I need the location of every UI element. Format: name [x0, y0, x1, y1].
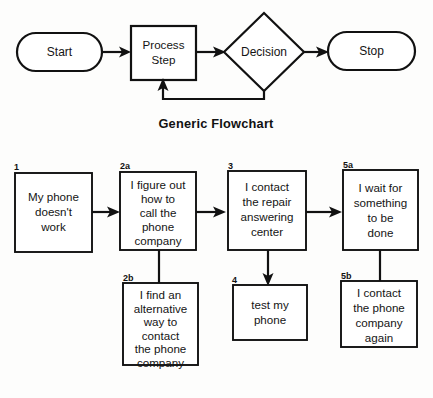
box-5b-line-1: I contact	[357, 286, 402, 299]
connector-process-to-decision	[196, 47, 226, 58]
box-1-line-3: work	[40, 220, 66, 233]
box-2a-line-1: I figure out	[131, 178, 187, 191]
box-2a-line-5: company	[134, 234, 181, 247]
box-2b: 2b I find an alternative way to contact …	[123, 273, 198, 369]
box-5a-line-2: something	[354, 196, 408, 209]
box-2b-line-1: I find an	[140, 288, 181, 301]
box-5a-number: 5a	[343, 160, 354, 170]
box-3: 3 I contact the repair answering center	[228, 161, 306, 250]
box-4-line-2: phone	[254, 313, 286, 326]
box-5a-line-1: I wait for	[359, 181, 403, 194]
connector-box3-to-box5a	[306, 207, 342, 218]
phone-flowchart-group: 1 My phone doesn't work 2a I figure out …	[14, 160, 418, 369]
box-1-line-1: My phone	[28, 190, 79, 203]
stop-label: Stop	[359, 44, 384, 58]
box-2b-line-6: company	[137, 356, 184, 369]
box-2b-line-4: contact	[142, 329, 180, 342]
connector-decision-to-stop	[304, 47, 329, 58]
box-2b-number: 2b	[123, 273, 134, 283]
box-5b-number: 5b	[341, 271, 352, 281]
connector-box3-to-box4	[263, 250, 274, 286]
box-3-line-2: the repair	[243, 195, 292, 208]
generic-flowchart-group: Start Process Step Decision	[17, 13, 415, 131]
process-step-label-line-1: Process	[143, 38, 185, 51]
connector-decision-feedback-loop	[158, 78, 265, 99]
connector-box2a-to-box3	[196, 207, 226, 218]
connector-start-to-process	[102, 47, 131, 58]
decision-label: Decision	[241, 45, 287, 59]
box-1-number: 1	[14, 162, 19, 172]
box-2a-number: 2a	[120, 161, 131, 171]
box-2b-line-3: way to	[143, 315, 178, 328]
node-process-step: Process Step	[131, 26, 196, 80]
box-3-line-3: answering	[241, 210, 294, 223]
box-4: 4 test my phone	[232, 275, 307, 340]
box-1: 1 My phone doesn't work	[14, 162, 92, 252]
process-step-label-line-2: Step	[152, 53, 176, 66]
box-3-line-1: I contact	[245, 180, 290, 193]
box-2b-line-2: alternative	[134, 302, 188, 315]
box-3-line-4: center	[251, 225, 283, 238]
box-5a-line-4: done	[368, 226, 394, 239]
start-label: Start	[47, 45, 73, 59]
box-2a: 2a I figure out how to call the phone co…	[120, 161, 196, 250]
box-5b-line-3: company	[355, 316, 402, 329]
node-start: Start	[17, 33, 102, 71]
flowchart-canvas: Start Process Step Decision	[0, 0, 433, 398]
box-2a-line-2: how to	[141, 192, 175, 205]
box-2a-line-4: phone	[142, 220, 174, 233]
feedback-loop-line	[163, 88, 264, 99]
box-4-number: 4	[232, 275, 237, 285]
box-3-number: 3	[228, 161, 233, 171]
box-5b: 5b I contact the phone company again	[341, 271, 417, 347]
flowchart-figure: Start Process Step Decision	[0, 0, 433, 398]
box-1-line-2: doesn't	[35, 205, 73, 218]
box-2a-line-3: call the	[140, 206, 177, 219]
box-2b-line-5: the phone	[135, 342, 187, 355]
box-5a: 5a I wait for something to be done	[343, 160, 418, 250]
node-decision: Decision	[224, 13, 304, 91]
box-5b-line-2: the phone	[353, 301, 405, 314]
connector-box1-to-box2a	[92, 207, 120, 218]
node-stop: Stop	[328, 32, 415, 70]
box-4-line-1: test my	[251, 298, 289, 311]
box-5b-line-4: again	[365, 331, 393, 344]
generic-flowchart-caption: Generic Flowchart	[158, 116, 274, 131]
box-5a-line-3: to be	[368, 211, 394, 224]
